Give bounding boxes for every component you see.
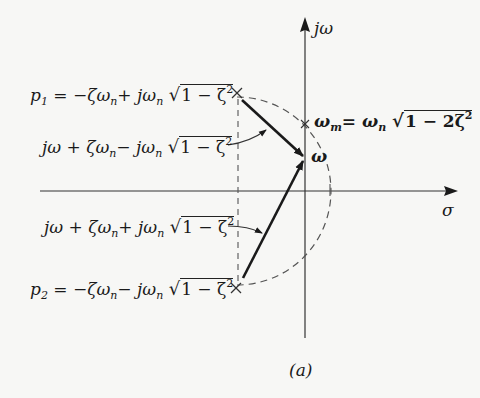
upper-leader-arrow (228, 130, 266, 145)
jw-axis (300, 17, 310, 338)
jw-axis-label: jω (314, 20, 333, 37)
s-plane-diagram: jω σ p1 = −ζωn+ jωn √1 − ζ2 jω + ζωn− jω… (0, 0, 480, 398)
sigma-axis (40, 186, 458, 196)
pole-p1-cross-icon (232, 88, 242, 98)
figure-caption: (a) (289, 362, 312, 379)
vector-p2-to-omega (243, 161, 303, 278)
omega-m-label: ωm= ωn √1 − 2ζ2 (314, 110, 472, 133)
sigma-axis-label: σ (442, 202, 454, 219)
diagram-canvas (0, 0, 480, 398)
upper-vector-label: jω + ζωn− jωn √1 − ζ2 (42, 136, 232, 159)
vector-p1-to-omega (242, 100, 303, 156)
pole-p1-label: p1 = −ζωn+ jωn √1 − ζ2 (30, 84, 233, 107)
omega-point-label: ω (311, 148, 327, 165)
lower-vector-label: jω + ζωn+ jωn √1 − ζ2 (44, 216, 234, 239)
jw-axis-arrow-icon (300, 17, 310, 32)
pole-p2-label: p2 = −ζωn− jωn √1 − ζ2 (30, 278, 233, 301)
sigma-axis-arrow-icon (444, 186, 458, 196)
